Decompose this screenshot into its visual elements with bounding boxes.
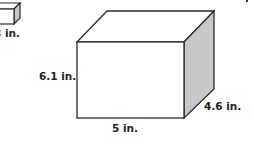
large-prism: 6.1 in. 5 in. 4.6 in. [39, 11, 241, 134]
width-label: 5 in. [112, 122, 138, 134]
small-prism-front-face [0, 9, 14, 24]
height-label: 6.1 in. [39, 70, 76, 82]
diagram-canvas: 3 in. 6.1 in. 5 in. 4.6 in. [0, 0, 254, 143]
front-face [77, 42, 184, 118]
cropped-mark [246, 0, 248, 2]
depth-label: 4.6 in. [204, 100, 241, 112]
small-prism-label: 3 in. [0, 27, 20, 39]
small-prism: 3 in. [0, 3, 20, 39]
